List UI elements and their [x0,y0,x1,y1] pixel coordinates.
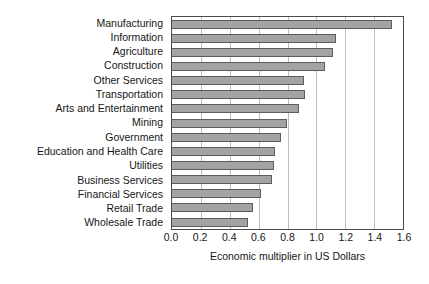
bar-row [172,173,403,187]
y-axis-label: Utilities [129,160,163,171]
y-axis-label: Arts and Entertainment [56,103,163,114]
x-tick-label: 0.4 [222,231,237,243]
bar-row [172,116,403,130]
bar-row [172,31,403,45]
x-tick-label: 0.8 [280,231,295,243]
x-tick-label: 1.0 [309,231,324,243]
bar-row [172,74,403,88]
bar [171,203,253,212]
bar [171,147,275,156]
x-tick-label: 1.4 [368,231,383,243]
y-axis-label-row: Agriculture [0,45,167,59]
bar-series [172,17,403,229]
y-axis-label: Government [105,132,163,143]
bar [171,34,336,43]
bar [171,90,305,99]
bar-row [172,187,403,201]
y-axis-label-row: Construction [0,59,167,73]
y-axis-label: Financial Services [78,189,163,200]
bar-row [172,130,403,144]
y-axis-label: Wholesale Trade [84,217,163,228]
y-axis-label: Transportation [96,89,163,100]
bar [171,119,287,128]
x-tick-label: 1.6 [397,231,412,243]
y-axis-label-row: Education and Health Care [0,144,167,158]
y-axis-label-row: Wholesale Trade [0,216,167,230]
bar-row [172,144,403,158]
bar-row [172,59,403,73]
y-axis-label-row: Business Services [0,173,167,187]
bar [171,48,333,57]
y-axis-label: Information [110,32,163,43]
x-tick-label: 0.6 [251,231,266,243]
bar [171,175,272,184]
bar [171,189,261,198]
y-axis-category-labels: ManufacturingInformationAgricultureConst… [0,16,167,230]
bar-row [172,88,403,102]
bar-row [172,201,403,215]
bar [171,62,325,71]
y-axis-label-row: Mining [0,116,167,130]
bar-row [172,17,403,31]
x-tick-label: 0.0 [164,231,179,243]
x-tick-label: 0.2 [193,231,208,243]
y-axis-label-row: Utilities [0,159,167,173]
y-axis-label-row: Arts and Entertainment [0,102,167,116]
y-axis-label-row: Information [0,30,167,44]
bar [171,76,304,85]
y-axis-label: Manufacturing [96,18,163,29]
x-tick-label: 1.2 [338,231,353,243]
y-axis-label: Other Services [94,75,163,86]
y-axis-label: Construction [104,60,163,71]
y-axis-label-row: Retail Trade [0,201,167,215]
bar [171,133,281,142]
bar [171,20,392,29]
y-axis-label-row: Transportation [0,87,167,101]
y-axis-label: Agriculture [113,46,163,57]
y-axis-label-row: Manufacturing [0,16,167,30]
bar [171,218,248,227]
y-axis-label: Mining [132,117,163,128]
y-axis-label-row: Other Services [0,73,167,87]
bar [171,161,274,170]
y-axis-label-row: Financial Services [0,187,167,201]
y-axis-label-row: Government [0,130,167,144]
x-axis-title: Economic multiplier in US Dollars [171,250,404,263]
bar-row [172,215,403,229]
x-axis-tick-labels: 0.00.20.40.60.81.01.21.41.6 [171,231,404,245]
bar-row [172,45,403,59]
y-axis-label: Education and Health Care [37,146,163,157]
plot-area [171,16,404,230]
y-axis-label: Retail Trade [106,203,163,214]
bar [171,104,299,113]
bar-row [172,158,403,172]
y-axis-label: Business Services [77,175,163,186]
economic-multiplier-bar-chart: ManufacturingInformationAgricultureConst… [0,0,429,284]
bar-row [172,102,403,116]
